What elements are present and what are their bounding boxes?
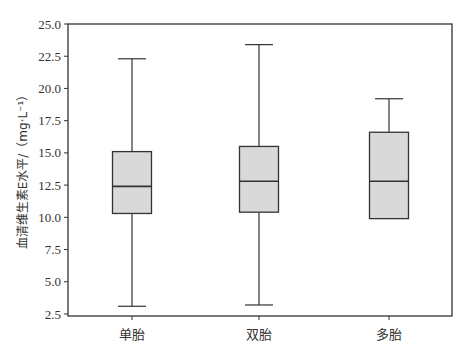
y-tick-label: 12.5 — [38, 178, 61, 193]
box-单胎 — [113, 152, 152, 214]
plot-area: 2.55.07.510.012.515.017.520.022.525.0血清维… — [16, 17, 452, 343]
x-category-label: 双胎 — [246, 327, 272, 342]
y-axis-label: 血清维生素E水平/（mg·L⁻¹） — [16, 89, 30, 250]
y-tick-label: 5.0 — [45, 274, 61, 289]
box-双胎 — [240, 146, 279, 212]
x-category-label: 多胎 — [376, 327, 402, 342]
y-tick-label: 10.0 — [38, 210, 61, 225]
y-tick-label: 20.0 — [38, 81, 61, 96]
y-tick-label: 15.0 — [38, 145, 61, 160]
box-多胎 — [370, 132, 409, 218]
y-tick-label: 25.0 — [38, 17, 61, 32]
y-tick-label: 7.5 — [45, 242, 61, 257]
x-category-label: 单胎 — [119, 327, 145, 342]
y-tick-label: 2.5 — [45, 307, 61, 322]
y-tick-label: 22.5 — [38, 49, 61, 64]
y-tick-label: 17.5 — [38, 113, 61, 128]
box-plot-chart: 2.55.07.510.012.515.017.520.022.525.0血清维… — [0, 0, 468, 357]
